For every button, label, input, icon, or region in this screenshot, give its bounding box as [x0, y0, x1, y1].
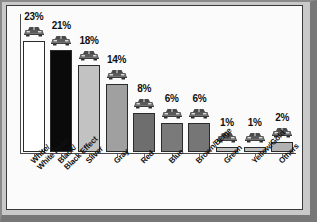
bar-value-label: 6% — [165, 94, 179, 104]
y-axis-line — [20, 14, 21, 154]
car-icon — [106, 69, 128, 80]
chart-figure: 23%21%18%14%8%6%6%1%1%2% White/ White Pe… — [0, 0, 317, 222]
car-icon — [161, 108, 183, 119]
bar-group: 14% — [106, 55, 128, 152]
car-icon-wrapper — [23, 23, 45, 41]
bar — [23, 41, 45, 152]
plot-area: 23%21%18%14%8%6%6%1%1%2% White/ White Pe… — [6, 5, 303, 210]
car-icon — [23, 26, 45, 37]
car-icon — [78, 50, 100, 61]
bar-value-label: 23% — [24, 12, 43, 22]
car-icon-wrapper — [244, 129, 266, 147]
car-icon — [133, 98, 155, 109]
bar-value-label: 18% — [79, 36, 98, 46]
car-icon-wrapper — [161, 105, 183, 123]
car-icon — [244, 132, 266, 143]
car-icon-wrapper — [106, 66, 128, 84]
bar — [106, 84, 128, 152]
car-icon — [188, 108, 210, 119]
bar — [133, 113, 155, 152]
car-icon-wrapper — [50, 32, 72, 50]
bar-value-label: 8% — [137, 84, 151, 94]
bar-value-label: 14% — [107, 55, 126, 65]
car-icon-wrapper — [78, 47, 100, 65]
bar-value-label: 21% — [52, 21, 71, 31]
car-icon-wrapper — [188, 105, 210, 123]
bar-group: 6% — [188, 94, 210, 152]
car-icon-wrapper — [133, 95, 155, 113]
bar-value-label: 1% — [248, 118, 262, 128]
bar-value-label: 2% — [275, 113, 289, 123]
bar-group: 8% — [133, 84, 155, 152]
bar-value-label: 6% — [192, 94, 206, 104]
car-icon — [50, 35, 72, 46]
bar-group: 6% — [161, 94, 183, 152]
bar-group: 23% — [23, 12, 45, 152]
